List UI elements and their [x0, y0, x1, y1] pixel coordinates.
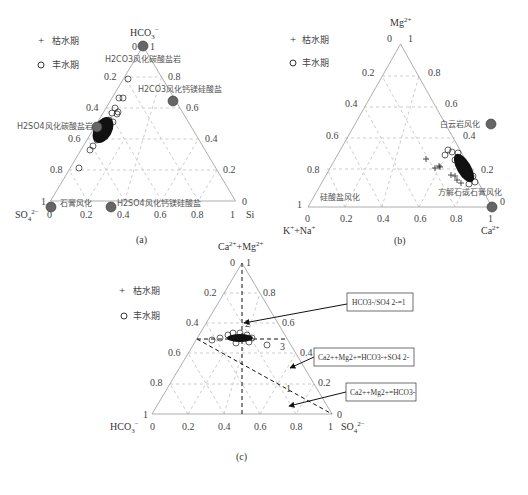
svg-text:0: 0 — [500, 196, 505, 207]
svg-text:0.4: 0.4 — [377, 213, 390, 224]
panel-b: + 枯水期 丰水期 01 0.20.8 0.40.6 0.60.4 0.80.2 — [283, 16, 505, 247]
grid-a — [69, 77, 217, 201]
svg-text:3: 3 — [280, 341, 285, 352]
svg-text:1: 1 — [286, 383, 291, 394]
callout-line3: Ca2++Mg2+=HCO3-+SO4 2- — [318, 353, 409, 362]
axis-left-a: SO42− — [15, 208, 39, 223]
endmember-dolomite — [486, 119, 496, 129]
svg-text:硅酸盐风化: 硅酸盐风化 — [320, 192, 360, 202]
svg-text:0.8: 0.8 — [428, 67, 441, 78]
svg-text:0.6: 0.6 — [282, 317, 295, 328]
svg-text:0.4: 0.4 — [300, 347, 313, 358]
axis-left-c: HCO3− — [110, 420, 139, 435]
svg-text:1: 1 — [408, 33, 413, 44]
svg-text:0.6: 0.6 — [68, 133, 81, 144]
plus-marker-icon: + — [290, 33, 296, 45]
svg-text:0.2: 0.2 — [204, 287, 217, 298]
svg-text:0.2: 0.2 — [80, 209, 93, 220]
svg-text:0.6: 0.6 — [154, 209, 167, 220]
svg-text:0.6: 0.6 — [168, 347, 181, 358]
svg-text:0: 0 — [387, 33, 392, 44]
svg-text:0.2: 0.2 — [362, 67, 375, 78]
arrow-line1 — [289, 392, 346, 406]
svg-text:白云岩风化: 白云岩风化 — [440, 119, 480, 129]
svg-text:石膏风化: 石膏风化 — [60, 198, 92, 208]
svg-text:1: 1 — [41, 196, 46, 207]
endmember-calcite — [487, 202, 497, 212]
svg-text:0: 0 — [150, 421, 155, 432]
svg-text:0.4: 0.4 — [205, 133, 218, 144]
endmember-labels-a: H2CO3风化碳酸盐岩 H2CO3风化钙镁硅酸盐 H2SO4风化碳酸盐岩 石膏风… — [17, 54, 222, 208]
svg-text:0.2: 0.2 — [104, 71, 117, 82]
svg-text:0.2: 0.2 — [182, 421, 195, 432]
svg-text:0: 0 — [132, 41, 137, 52]
svg-text:2: 2 — [245, 318, 250, 329]
figure-canvas: + 枯水期 丰水期 01 0.20.8 0.40.6 0.60.4 — [0, 0, 528, 495]
legend-c: + 枯水期 丰水期 — [119, 284, 160, 321]
svg-text:0.4: 0.4 — [117, 209, 130, 220]
svg-text:方解石或石膏风化: 方解石或石膏风化 — [438, 187, 502, 197]
svg-text:0.8: 0.8 — [290, 421, 303, 432]
svg-text:0: 0 — [230, 257, 235, 268]
grid-c — [170, 293, 314, 414]
legend-b: + 枯水期 丰水期 — [290, 33, 329, 68]
arrow-line3 — [290, 357, 314, 368]
svg-text:0.8: 0.8 — [50, 164, 63, 175]
svg-text:0.2: 0.2 — [223, 164, 236, 175]
legend-wet: 丰水期 — [133, 310, 160, 321]
open-circle-icon — [290, 60, 296, 66]
svg-text:0.2: 0.2 — [481, 164, 494, 175]
open-circle-icon — [38, 62, 44, 68]
svg-text:0: 0 — [242, 196, 247, 207]
axis-right-b: Ca2+ — [481, 224, 500, 236]
caption-a: (a) — [136, 234, 147, 246]
svg-text:0.8: 0.8 — [168, 71, 181, 82]
legend-dry: 枯水期 — [133, 285, 160, 296]
callout-line1: Ca2++Mg2+=HCO3- — [350, 388, 416, 397]
svg-text:0.8: 0.8 — [263, 287, 276, 298]
panel-c: + 枯水期 丰水期 01 0.20.8 — [110, 240, 416, 463]
svg-text:1: 1 — [297, 199, 302, 210]
svg-text:1: 1 — [328, 421, 333, 432]
axis-top-a: HCO3− — [130, 26, 159, 41]
svg-text:0.6: 0.6 — [186, 102, 199, 113]
svg-text:0.4: 0.4 — [345, 98, 358, 109]
svg-text:0.8: 0.8 — [150, 377, 163, 388]
open-circle-icon — [121, 313, 127, 319]
svg-text:0.4: 0.4 — [186, 317, 199, 328]
svg-text:0.6: 0.6 — [326, 130, 339, 141]
plus-marker-icon: + — [38, 34, 44, 46]
svg-text:0.6: 0.6 — [414, 213, 427, 224]
svg-text:0: 0 — [337, 409, 342, 420]
points-dry-c — [227, 334, 253, 342]
svg-text:H2SO4风化钙镁硅酸盐: H2SO4风化钙镁硅酸盐 — [117, 198, 201, 208]
svg-text:0.8: 0.8 — [450, 213, 463, 224]
caption-b: (b) — [394, 235, 406, 247]
axis-right-a: Si — [246, 209, 255, 220]
arrow-line2 — [244, 304, 347, 323]
plus-marker-icon: + — [119, 284, 125, 296]
svg-text:1: 1 — [488, 213, 493, 224]
legend-wet: 丰水期 — [302, 57, 329, 68]
axis-right-c: SO42− — [341, 420, 365, 435]
svg-text:H2CO3风化钙镁硅酸盐: H2CO3风化钙镁硅酸盐 — [138, 84, 222, 94]
svg-text:0.2: 0.2 — [340, 213, 353, 224]
caption-c: (c) — [236, 451, 247, 463]
svg-text:0.6: 0.6 — [445, 98, 458, 109]
svg-text:0.8: 0.8 — [191, 209, 204, 220]
axis-left-b: K++Na+ — [283, 224, 316, 236]
legend-wet: 丰水期 — [52, 59, 79, 70]
svg-text:0.4: 0.4 — [463, 130, 476, 141]
line-ids-c: 1 2 3 — [245, 318, 291, 394]
legend-a: + 枯水期 丰水期 — [38, 34, 79, 70]
svg-text:0.8: 0.8 — [307, 164, 320, 175]
axis-top-b: Mg2+ — [390, 16, 411, 28]
panel-a: + 枯水期 丰水期 01 0.20.8 0.40.6 0.60.4 — [15, 26, 255, 246]
svg-text:1: 1 — [246, 257, 251, 268]
svg-text:H2CO3风化碳酸盐岩: H2CO3风化碳酸盐岩 — [105, 54, 181, 64]
svg-text:1: 1 — [230, 209, 235, 220]
legend-dry: 枯水期 — [302, 34, 329, 45]
svg-text:H2SO4风化碳酸盐岩: H2SO4风化碳酸盐岩 — [17, 121, 93, 131]
svg-text:1: 1 — [150, 41, 155, 52]
callout-line2: HCO3-/SO4 2-=1 — [352, 298, 406, 307]
